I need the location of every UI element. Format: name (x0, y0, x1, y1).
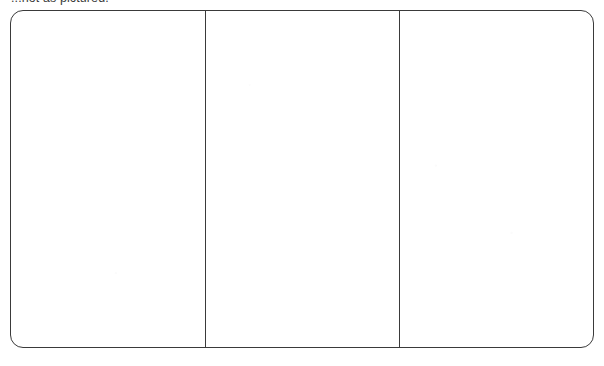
document-caption: ...not as pictured. (11, 0, 109, 6)
caption-clip: ...not as pictured. (0, 0, 604, 6)
divider-2 (399, 11, 400, 347)
right-panel[interactable] (399, 11, 592, 347)
trifold-panel-frame (10, 10, 594, 348)
left-panel[interactable] (11, 11, 205, 347)
divider-1 (205, 11, 206, 347)
center-panel[interactable] (205, 11, 399, 347)
